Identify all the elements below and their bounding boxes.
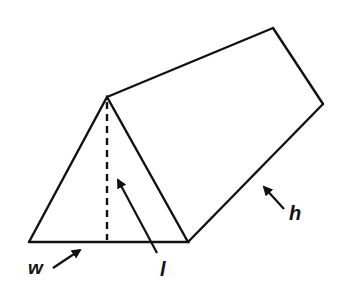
top-ridge-edge — [107, 28, 273, 97]
front-triangle — [29, 97, 188, 242]
length-label: l — [160, 258, 166, 280]
prism-edges — [29, 28, 323, 242]
height-arrow — [264, 187, 284, 209]
back-slant-edge — [273, 28, 323, 104]
triangular-prism-diagram: w l h — [0, 0, 338, 288]
width-arrow — [53, 250, 80, 268]
height-label: h — [289, 202, 301, 224]
bottom-right-edge — [188, 104, 323, 242]
width-label: w — [28, 257, 44, 278]
